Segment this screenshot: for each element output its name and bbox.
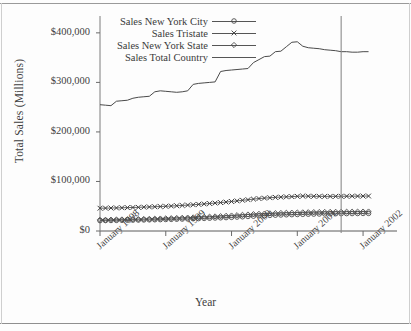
legend-item-swatch: [212, 39, 256, 51]
legend-item[interactable]: Sales New York State: [96, 39, 256, 51]
legend-item-label: Sales New York State: [117, 40, 212, 51]
legend-item-label: Sales Tristate: [152, 28, 212, 39]
legend-marker-x-cross-icon: [230, 29, 237, 36]
legend-item-swatch: [212, 15, 256, 27]
data-point: [231, 42, 236, 47]
legend-item-swatch: [212, 27, 256, 39]
legend-item-swatch: [212, 51, 256, 63]
series-sales-tristate: [98, 194, 371, 211]
legend-marker-circle-open-icon: [230, 17, 237, 24]
legend-item-label: Sales New York City: [120, 16, 212, 27]
legend-item[interactable]: Sales New York City: [96, 15, 256, 27]
legend-item[interactable]: Sales Tristate: [96, 27, 256, 39]
data-point: [232, 31, 237, 36]
chart-page: Total Sales (Millions) Year $0$100,000$2…: [0, 0, 411, 331]
legend-item-label: Sales Total Country: [125, 52, 212, 63]
chart-legend: Sales New York CitySales TristateSales N…: [96, 15, 256, 63]
legend-item[interactable]: Sales Total Country: [96, 51, 256, 63]
legend-marker-diamond-open-icon: [230, 41, 237, 48]
legend-line: [212, 57, 256, 58]
data-point: [232, 19, 237, 24]
